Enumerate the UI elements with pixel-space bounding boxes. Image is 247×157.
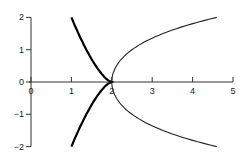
chart: 210−1−2012345 [0,0,247,157]
x-tick-label: 5 [230,86,235,96]
y-tick-label: 0 [19,77,24,87]
y-tick-label: −1 [14,109,24,119]
x-tick-label: 0 [28,86,33,96]
x-tick-label: 3 [150,86,155,96]
x-tick-label: 4 [190,86,195,96]
y-tick-label: 2 [19,12,24,22]
y-tick-label: −2 [14,142,24,152]
x-tick-label: 1 [69,86,74,96]
y-tick-label: 1 [19,45,24,55]
axes [26,17,233,146]
